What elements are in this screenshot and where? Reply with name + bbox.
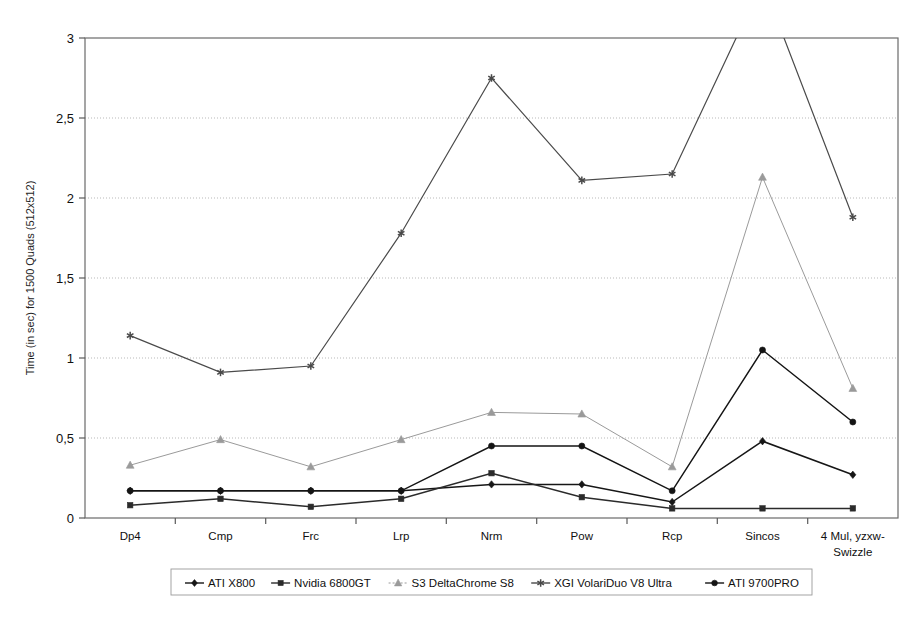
series-s3-deltachrome-s8 (126, 173, 856, 470)
legend-item-xgi-volariduo-v8-ultra[interactable]: XGI VolariDuo V8 Ultra (531, 577, 672, 589)
data-point (127, 502, 132, 507)
y-tick-label: 0,5 (56, 431, 74, 446)
data-point (579, 443, 585, 449)
data-point (217, 436, 225, 443)
data-point (850, 213, 857, 221)
data-point (759, 347, 765, 353)
data-point (217, 488, 223, 494)
data-point (308, 488, 314, 494)
legend-item-ati-x800[interactable]: ATI X800 (185, 577, 255, 589)
data-point (488, 443, 494, 449)
x-axis-label: 4 Mul, yzxw- (821, 530, 885, 542)
series-line (130, 0, 853, 372)
x-axis-label: Sincos (745, 530, 780, 542)
x-axis-label: Cmp (208, 530, 232, 542)
legend-marker (278, 580, 283, 585)
data-point (669, 488, 675, 494)
x-axis-label: Frc (302, 530, 319, 542)
data-point (488, 481, 494, 488)
series-group (126, 0, 856, 511)
data-point (669, 498, 675, 505)
data-point (759, 438, 765, 445)
legend-item-ati-9700pro[interactable]: ATI 9700PRO (705, 577, 799, 589)
data-point (760, 506, 765, 511)
gridlines (85, 118, 898, 438)
data-point (850, 506, 855, 511)
y-tick-label: 2,5 (56, 111, 74, 126)
data-point (127, 332, 134, 340)
y-tick-label: 3 (67, 31, 74, 46)
legend-marker (192, 580, 198, 587)
series-line (130, 177, 853, 467)
x-axis-label: Rcp (662, 530, 682, 542)
legend-label: ATI X800 (208, 577, 255, 589)
y-tick-label: 1 (67, 351, 74, 366)
y-axis-title: Time (in sec) for 1500 Quads (512x512) (24, 181, 36, 376)
data-point (218, 496, 223, 501)
data-point (849, 384, 857, 391)
data-point (579, 494, 584, 499)
x-axis-label: Swizzle (833, 546, 872, 558)
legend-label: ATI 9700PRO (728, 577, 799, 589)
chart-legend: ATI X800Nvidia 6800GTS3 DeltaChrome S8XG… (171, 569, 812, 595)
legend-label: XGI VolariDuo V8 Ultra (554, 577, 672, 589)
data-point (127, 488, 133, 494)
legend-marker (712, 580, 718, 586)
data-point (759, 173, 767, 180)
data-point (489, 470, 494, 475)
x-axis-label: Dp4 (120, 530, 142, 542)
x-axis-label: Pow (571, 530, 594, 542)
legend-item-s3-deltachrome-s8[interactable]: S3 DeltaChrome S8 (389, 577, 514, 589)
data-point (398, 488, 404, 494)
series-xgi-volariduo-v8-ultra (127, 0, 856, 376)
line-chart: 00,511,522,53 Dp4CmpFrcLrpNrmPowRcpSinco… (0, 0, 918, 618)
legend-item-nvidia-6800gt[interactable]: Nvidia 6800GT (271, 577, 371, 589)
data-point (398, 496, 403, 501)
data-point (488, 408, 496, 415)
y-tick-label: 2 (67, 191, 74, 206)
data-point (308, 504, 313, 509)
y-axis-ticks: 00,511,522,53 (56, 31, 85, 526)
legend-label: Nvidia 6800GT (294, 577, 371, 589)
data-point (579, 481, 585, 488)
x-axis-categories: Dp4CmpFrcLrpNrmPowRcpSincos4 Mul, yzxw-S… (120, 518, 885, 558)
data-point (669, 506, 674, 511)
legend-label: S3 DeltaChrome S8 (412, 577, 514, 589)
chart-container: 00,511,522,53 Dp4CmpFrcLrpNrmPowRcpSinco… (0, 0, 918, 618)
y-tick-label: 1,5 (56, 271, 74, 286)
y-axis-label: Time (in sec) for 1500 Quads (512x512) (24, 181, 36, 376)
data-point (850, 471, 856, 478)
x-axis-label: Lrp (393, 530, 410, 542)
data-point (668, 463, 676, 470)
data-point (850, 419, 856, 425)
y-tick-label: 0 (67, 511, 74, 526)
x-axis-label: Nrm (481, 530, 503, 542)
